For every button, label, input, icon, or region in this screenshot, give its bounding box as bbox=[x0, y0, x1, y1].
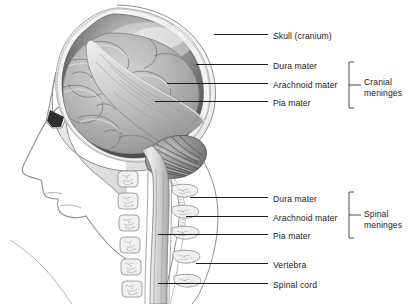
label-vertebra: Vertebra bbox=[273, 260, 306, 271]
label-cranial-dura: Dura mater bbox=[273, 61, 317, 72]
group-brackets bbox=[349, 62, 361, 238]
label-spinal-dura: Dura mater bbox=[273, 194, 317, 205]
spinous-processes bbox=[172, 184, 201, 287]
label-cranial-arachnoid: Arachnoid mater bbox=[273, 80, 338, 91]
anatomy-illustration bbox=[0, 0, 414, 304]
label-skull: Skull (cranium) bbox=[273, 31, 332, 42]
label-cranial-pia: Pia mater bbox=[273, 98, 311, 109]
group-label-spinal-meninges: Spinal meninges bbox=[364, 209, 402, 230]
group-label-cranial-meninges: Cranial meninges bbox=[364, 77, 402, 98]
meninges-figure: Skull (cranium)Dura materArachnoid mater… bbox=[0, 0, 414, 304]
label-spinal-pia: Pia mater bbox=[273, 231, 311, 242]
label-spinal-arachnoid: Arachnoid mater bbox=[273, 213, 338, 224]
label-spinal-cord: Spinal cord bbox=[273, 280, 317, 291]
